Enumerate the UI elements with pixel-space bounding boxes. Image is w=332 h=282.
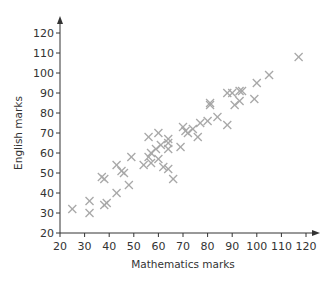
x-axis-ticks: 2030405060708090100110120 bbox=[53, 233, 317, 253]
x-marker-icon bbox=[177, 143, 185, 151]
x-marker-icon bbox=[113, 189, 121, 197]
x-marker-icon bbox=[253, 79, 261, 87]
data-points bbox=[68, 53, 302, 217]
x-marker-icon bbox=[125, 181, 133, 189]
x-tick-label: 20 bbox=[53, 240, 67, 253]
y-tick-label: 70 bbox=[40, 127, 54, 140]
x-marker-icon bbox=[100, 175, 108, 183]
x-marker-icon bbox=[204, 117, 212, 125]
x-marker-icon bbox=[118, 167, 126, 175]
y-axis-title: English marks bbox=[12, 96, 24, 170]
x-marker-icon bbox=[250, 95, 258, 103]
x-marker-icon bbox=[86, 209, 94, 217]
x-marker-icon bbox=[194, 133, 202, 141]
x-tick-label: 70 bbox=[176, 240, 190, 253]
x-marker-icon bbox=[145, 133, 153, 141]
x-marker-icon bbox=[265, 71, 273, 79]
x-marker-icon bbox=[189, 125, 197, 133]
scatter-chart: 2030405060708090100110120 20304050607080… bbox=[0, 0, 332, 282]
y-tick-label: 30 bbox=[40, 207, 54, 220]
x-marker-icon bbox=[213, 113, 221, 121]
y-tick-label: 100 bbox=[33, 67, 54, 80]
x-marker-icon bbox=[86, 197, 94, 205]
x-tick-label: 100 bbox=[246, 240, 267, 253]
y-tick-label: 90 bbox=[40, 87, 54, 100]
y-tick-label: 20 bbox=[40, 227, 54, 240]
y-tick-label: 110 bbox=[33, 47, 54, 60]
y-tick-label: 40 bbox=[40, 187, 54, 200]
x-marker-icon bbox=[140, 161, 148, 169]
x-tick-label: 80 bbox=[201, 240, 215, 253]
x-marker-icon bbox=[231, 101, 239, 109]
x-marker-icon bbox=[164, 145, 172, 153]
x-marker-icon bbox=[113, 161, 121, 169]
y-tick-label: 50 bbox=[40, 167, 54, 180]
y-axis-ticks: 2030405060708090100110120 bbox=[33, 27, 60, 240]
x-marker-icon bbox=[295, 53, 303, 61]
x-marker-icon bbox=[147, 149, 155, 157]
y-tick-label: 80 bbox=[40, 107, 54, 120]
x-axis-title: Mathematics marks bbox=[131, 258, 235, 270]
x-marker-icon bbox=[223, 121, 231, 129]
x-marker-icon bbox=[103, 199, 111, 207]
x-marker-icon bbox=[184, 129, 192, 137]
x-marker-icon bbox=[169, 175, 177, 183]
y-tick-label: 60 bbox=[40, 147, 54, 160]
x-marker-icon bbox=[68, 205, 76, 213]
y-tick-label: 120 bbox=[33, 27, 54, 40]
x-tick-label: 90 bbox=[225, 240, 239, 253]
x-tick-label: 30 bbox=[78, 240, 92, 253]
x-marker-icon bbox=[127, 153, 135, 161]
y-axis-arrow-icon bbox=[57, 16, 63, 24]
x-marker-icon bbox=[152, 145, 160, 153]
x-tick-label: 60 bbox=[151, 240, 165, 253]
x-tick-label: 40 bbox=[102, 240, 116, 253]
x-marker-icon bbox=[236, 97, 244, 105]
x-marker-icon bbox=[154, 155, 162, 163]
x-marker-icon bbox=[228, 89, 236, 97]
x-marker-icon bbox=[196, 119, 204, 127]
x-tick-label: 120 bbox=[296, 240, 317, 253]
x-tick-label: 110 bbox=[271, 240, 292, 253]
x-marker-icon bbox=[157, 141, 165, 149]
x-tick-label: 50 bbox=[127, 240, 141, 253]
x-marker-icon bbox=[154, 129, 162, 137]
x-marker-icon bbox=[164, 135, 172, 143]
x-axis-arrow-icon bbox=[312, 230, 320, 236]
